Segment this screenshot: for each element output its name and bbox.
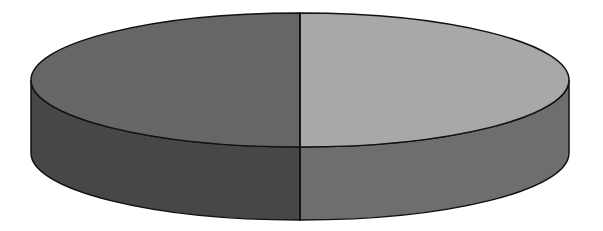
pie-chart-3d [0,0,603,231]
